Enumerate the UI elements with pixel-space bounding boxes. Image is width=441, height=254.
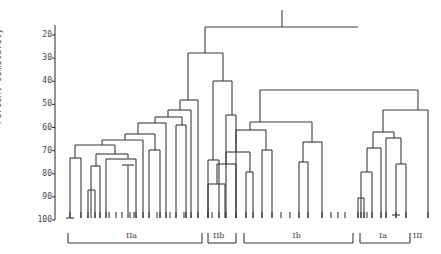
- y-tick-label: 70: [30, 146, 52, 155]
- dendrogram-leaves: [70, 212, 428, 218]
- y-tick-label: 100: [30, 215, 52, 224]
- y-tick-label: 90: [30, 192, 52, 201]
- dendrogram-tree: [66, 10, 428, 218]
- group-label-iib: IIb: [213, 231, 224, 240]
- y-tick-label: 20: [30, 30, 52, 39]
- group-label-ia: Ia: [379, 231, 387, 240]
- group-label-iii: III: [413, 231, 422, 240]
- y-tick-label: 80: [30, 169, 52, 178]
- y-tick-label: 40: [30, 76, 52, 85]
- y-tick-label: 30: [30, 53, 52, 62]
- y-tick-label: 60: [30, 123, 52, 132]
- group-label-ib: Ib: [293, 231, 301, 240]
- group-brackets: [68, 233, 410, 243]
- group-label-iia: IIa: [126, 231, 137, 240]
- y-tick-label: 50: [30, 99, 52, 108]
- y-axis: [52, 25, 55, 220]
- dendrogram-chart: [0, 0, 441, 254]
- y-axis-title: Percent similarity: [0, 28, 3, 124]
